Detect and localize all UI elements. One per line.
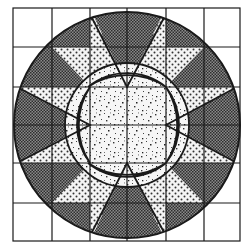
quilt-diagram xyxy=(0,0,249,251)
